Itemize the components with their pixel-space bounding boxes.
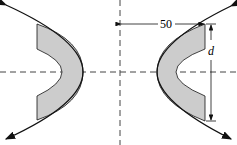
parabola-diagram: 50 d: [0, 0, 237, 145]
dimension-label-d: d: [208, 44, 215, 58]
dimension-label-50: 50: [160, 17, 172, 31]
